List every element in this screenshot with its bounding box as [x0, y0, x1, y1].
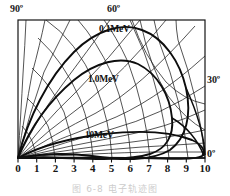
x-tick-label: 2 [53, 163, 59, 174]
x-tick-label: 5 [109, 163, 115, 174]
angle-label-90: 90º [10, 4, 23, 14]
x-tick-label: 9 [184, 163, 190, 174]
x-tick-label-row: 0 1 2 3 4 5 6 7 8 9 10 [0, 163, 230, 177]
figure-container: 90º 60º 30º 0º 0.1MeV 1.0MeV 10MeV 0 1 2… [0, 0, 230, 196]
figure-caption: 图 6-8 电子轨迹图 [0, 182, 230, 196]
x-tick-label: 3 [71, 163, 77, 174]
angle-label-60: 60º [107, 4, 120, 14]
x-tick-label: 0 [15, 163, 21, 174]
x-tick-label: 4 [90, 163, 96, 174]
x-tick-label: 8 [165, 163, 171, 174]
curve-label-10-mev: 10MeV [85, 130, 114, 140]
x-tick-label: 6 [127, 163, 133, 174]
x-tick-label: 10 [200, 163, 211, 174]
x-tick-label: 1 [34, 163, 40, 174]
x-tick-label: 7 [146, 163, 152, 174]
angle-label-0: 0º [207, 149, 215, 159]
curve-label-0-1-mev: 0.1MeV [99, 24, 130, 34]
curve-label-1-0-mev: 1.0MeV [88, 74, 119, 84]
angle-label-30: 30º [207, 75, 220, 85]
